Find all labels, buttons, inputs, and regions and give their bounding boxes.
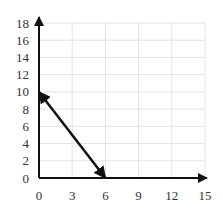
x-tick-label: 6 (102, 188, 109, 203)
x-tick-label: 0 (36, 188, 43, 203)
y-tick-label: 2 (23, 153, 30, 168)
y-tick-label: 8 (23, 102, 30, 117)
y-tick-label: 12 (16, 67, 29, 82)
x-tick-label: 15 (199, 188, 212, 203)
x-tick-label: 12 (165, 188, 178, 203)
y-tick-label: 0 (23, 171, 30, 186)
y-tick-labels: 024681012141618 (16, 16, 30, 186)
x-tick-labels: 03691215 (36, 188, 212, 203)
y-tick-label: 10 (16, 84, 29, 99)
chart: 03691215 024681012141618 (0, 0, 223, 219)
x-tick-label: 9 (135, 188, 142, 203)
y-tick-label: 16 (16, 33, 30, 48)
axes (39, 17, 207, 178)
x-tick-label: 3 (69, 188, 76, 203)
line-chart: 03691215 024681012141618 (0, 0, 223, 219)
y-tick-label: 4 (23, 136, 30, 151)
y-tick-label: 18 (16, 16, 29, 31)
gridlines (39, 23, 205, 178)
y-tick-label: 6 (23, 119, 30, 134)
y-tick-label: 14 (16, 50, 30, 65)
